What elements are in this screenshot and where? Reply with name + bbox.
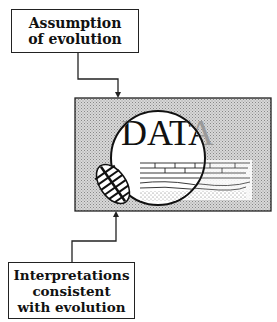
- connector-bottom: [72, 213, 116, 262]
- assumption-line-1: Assumption: [29, 15, 122, 31]
- interpretations-line-3: with evolution: [17, 299, 125, 315]
- interpretations-box: Interpretations consistent with evolutio…: [8, 262, 135, 319]
- interpretations-line-1: Interpretations: [14, 267, 130, 283]
- assumption-box: Assumption of evolution: [11, 9, 139, 53]
- arrow-up-icon: [113, 211, 119, 217]
- interpretations-line-2: consistent: [32, 283, 110, 299]
- arrow-down-icon: [115, 92, 121, 98]
- connector-top: [78, 53, 118, 96]
- assumption-line-2: of evolution: [28, 31, 121, 47]
